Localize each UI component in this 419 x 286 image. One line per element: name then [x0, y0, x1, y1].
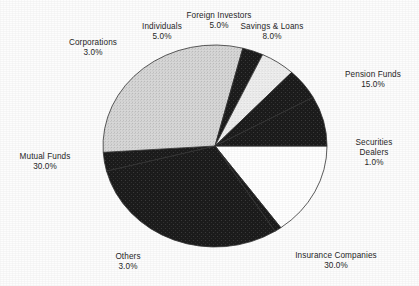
slice-label-individuals-value: 5.0%	[132, 32, 192, 42]
slice-label-foreign-investors-name: Foreign Investors	[175, 11, 263, 21]
slice-label-insurance-companies-value: 30.0%	[283, 261, 389, 271]
slice-label-mutual-funds: Mutual Funds 30.0%	[8, 152, 82, 172]
slice-label-securities-dealers-name2: Dealers	[343, 148, 405, 158]
slice-label-corporations: Corporations 3.0%	[54, 38, 132, 58]
slice-label-insurance-companies: Insurance Companies 30.0%	[283, 251, 389, 271]
slice-label-others-value: 3.0%	[106, 262, 150, 272]
slice-label-savings-and-loans-value: 8.0%	[229, 32, 315, 42]
slice-label-securities-dealers: Securities Dealers 1.0%	[343, 138, 405, 169]
slice-label-pension-funds-name: Pension Funds	[330, 70, 416, 80]
slice-label-others: Others 3.0%	[106, 252, 150, 272]
pie-slices-group	[103, 45, 327, 247]
slice-label-savings-and-loans-name: Savings & Loans	[229, 22, 315, 32]
slice-label-securities-dealers-value: 1.0%	[343, 158, 405, 168]
slice-label-pension-funds: Pension Funds 15.0%	[330, 70, 416, 90]
slice-label-corporations-value: 3.0%	[54, 48, 132, 58]
slice-label-corporations-name: Corporations	[54, 38, 132, 48]
pie-chart-figure: Corporations 3.0% Individuals 5.0% Forei…	[0, 0, 419, 286]
slice-label-mutual-funds-value: 30.0%	[8, 162, 82, 172]
slice-label-others-name: Others	[106, 252, 150, 262]
slice-label-savings-and-loans: Savings & Loans 8.0%	[229, 22, 315, 42]
slice-label-pension-funds-value: 15.0%	[330, 80, 416, 90]
slice-label-mutual-funds-name: Mutual Funds	[8, 152, 82, 162]
slice-label-insurance-companies-name: Insurance Companies	[283, 251, 389, 261]
slice-label-securities-dealers-name: Securities	[343, 138, 405, 148]
